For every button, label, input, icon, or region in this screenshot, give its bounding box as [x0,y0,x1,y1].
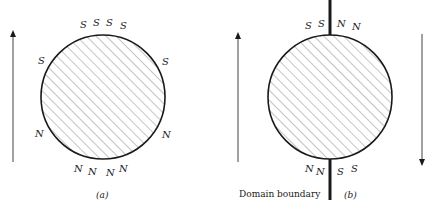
pole-label: S [106,17,113,28]
caption-a: (a) [96,190,109,200]
pole-label: S [337,166,344,177]
arrow-up-icon [235,32,241,162]
pole-label: N [105,167,116,178]
caption-b: (b) [344,190,357,200]
particle-circle-b [268,35,392,159]
arrow-up-icon [10,30,16,162]
pole-label: S [351,163,358,174]
particle-circle-a [41,35,165,159]
pole-label: S [162,56,169,67]
pole-label: N [161,129,172,140]
pole-label: N [34,128,45,139]
pole-label: N [87,166,98,177]
pole-label: N [304,163,315,174]
pole-label: N [315,166,326,177]
pole-label: N [118,163,129,174]
pole-label: S [305,20,312,31]
arrow-down-icon [419,34,425,166]
panel-a: S S S S S S N N N N N N (a) [10,17,172,200]
pole-label: S [80,19,87,30]
domain-boundary-label: Domain boundary [239,189,321,199]
pole-label: N [73,163,84,174]
domain-diagram: S S S S S S N N N N N N (a) S S N N N N … [0,0,430,208]
panel-b: S S N N N N S S Domain boundary (b) [235,0,425,200]
pole-label: S [318,18,325,29]
pole-label: N [351,21,362,32]
pole-label: S [93,17,100,28]
pole-label: S [120,20,127,31]
pole-label: S [38,55,45,66]
pole-label: N [336,18,347,29]
